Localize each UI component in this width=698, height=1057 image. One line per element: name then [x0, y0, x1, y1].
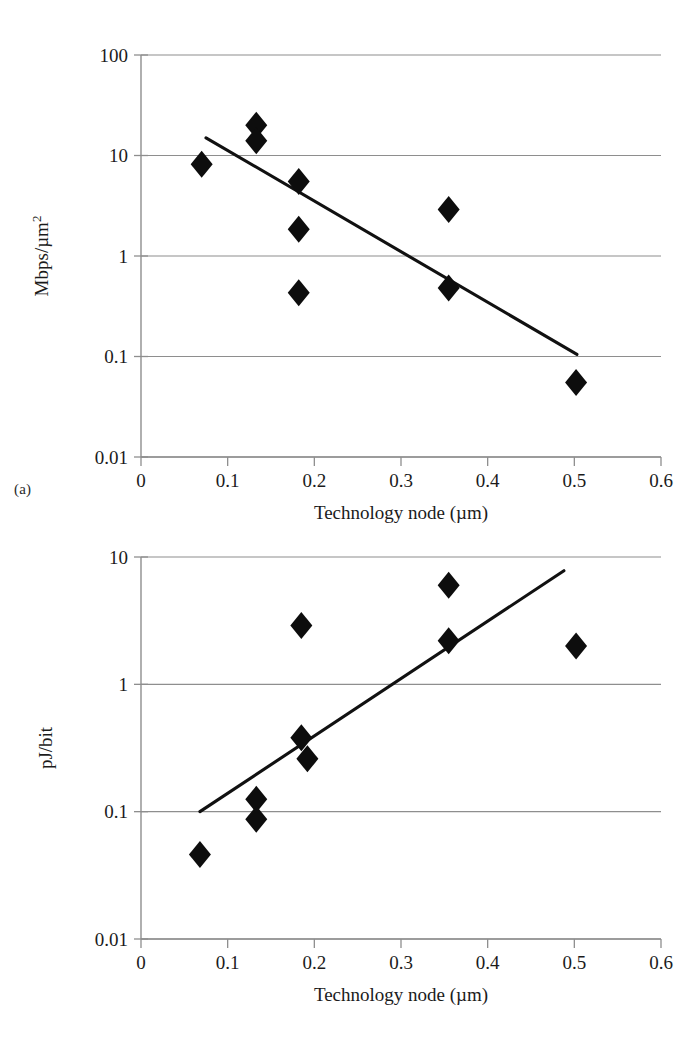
data-point-marker — [189, 841, 211, 868]
data-point-marker — [245, 806, 267, 833]
y-axis-title: pJ/bit — [35, 726, 56, 769]
y-tick-label: 1 — [119, 674, 129, 695]
data-point-marker — [290, 724, 312, 751]
y-tick-label: 1 — [119, 246, 129, 267]
trendline — [206, 138, 577, 355]
data-point-marker — [565, 369, 587, 396]
y-axis-title-exponent: 2 — [29, 216, 44, 223]
x-tick-label: 0 — [136, 952, 146, 973]
trendline — [200, 571, 564, 812]
data-point-marker — [245, 127, 267, 154]
y-tick-label: 10 — [109, 547, 128, 568]
x-tick-label: 0.1 — [216, 470, 240, 491]
y-tick-label: 100 — [100, 45, 129, 66]
data-point-marker — [288, 279, 310, 306]
scatter-plot-b: 1010.10.0100.10.20.30.40.50.6Technology … — [0, 528, 698, 1057]
x-axis-title: Technology node (µm) — [314, 502, 488, 524]
chart-panel-a: 1001010.10.0100.10.20.30.40.50.6Technolo… — [0, 0, 698, 530]
x-tick-label: 0.4 — [476, 470, 500, 491]
x-tick-label: 0 — [136, 470, 146, 491]
x-tick-label: 0.5 — [562, 470, 586, 491]
data-point-marker — [296, 745, 318, 772]
data-point-marker — [288, 168, 310, 195]
chart-panel-b: 1010.10.0100.10.20.30.40.50.6Technology … — [0, 528, 698, 1057]
x-tick-label: 0.6 — [649, 952, 673, 973]
y-tick-label: 0.01 — [95, 447, 128, 468]
x-tick-label: 0.3 — [389, 952, 413, 973]
scatter-plot-a: 1001010.10.0100.10.20.30.40.50.6Technolo… — [0, 0, 698, 530]
figure-container: 1001010.10.0100.10.20.30.40.50.6Technolo… — [0, 0, 698, 1057]
y-tick-label: 0.01 — [95, 929, 128, 950]
y-axis-title-base: Mbps/µm — [31, 222, 52, 297]
data-point-marker — [191, 151, 213, 178]
data-point-marker — [438, 196, 460, 223]
x-tick-label: 0.6 — [649, 470, 673, 491]
panel-label-a: (a) — [14, 481, 31, 498]
data-point-marker — [565, 633, 587, 660]
x-tick-label: 0.2 — [302, 470, 326, 491]
data-point-marker — [438, 572, 460, 599]
y-axis-title: Mbps/µm2 — [29, 216, 52, 297]
data-point-marker — [438, 275, 460, 302]
x-tick-label: 0.5 — [562, 952, 586, 973]
y-tick-label: 0.1 — [104, 801, 128, 822]
y-tick-label: 10 — [109, 145, 128, 166]
data-point-marker — [290, 612, 312, 639]
x-tick-label: 0.2 — [302, 952, 326, 973]
x-tick-label: 0.1 — [216, 952, 240, 973]
y-tick-label: 0.1 — [104, 346, 128, 367]
data-point-marker — [438, 627, 460, 654]
data-point-marker — [288, 216, 310, 243]
x-axis-title: Technology node (µm) — [314, 984, 488, 1006]
x-tick-label: 0.4 — [476, 952, 500, 973]
x-tick-label: 0.3 — [389, 470, 413, 491]
